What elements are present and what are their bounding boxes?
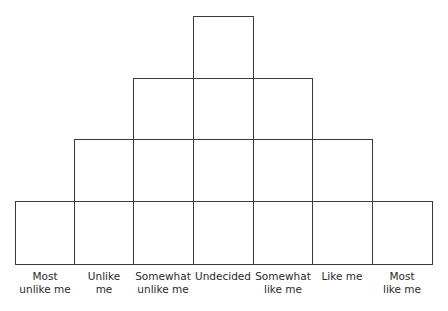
column-label-somewhat-unlike: Somewhatunlike me (132, 270, 194, 296)
grid-cell (133, 139, 194, 202)
grid-cell (312, 139, 373, 202)
grid-cell (74, 201, 134, 265)
grid-cell (193, 201, 254, 265)
column-label-like: Like me (311, 270, 373, 283)
grid-cell (133, 78, 194, 140)
column-label-undecided: Undecided (192, 270, 254, 283)
grid-cell (253, 139, 313, 202)
grid-cell (74, 139, 134, 202)
grid-cell (312, 201, 373, 265)
grid-cell (193, 16, 254, 79)
grid-cell (253, 201, 313, 265)
column-label-unlike: Unlikeme (73, 270, 135, 296)
column-label-most-unlike: Mostunlike me (14, 270, 76, 296)
grid-cell (372, 201, 433, 265)
grid-cell (133, 201, 194, 265)
grid-cell (15, 201, 75, 265)
grid-cell (193, 139, 254, 202)
grid-cell (193, 78, 254, 140)
column-label-somewhat-like: Somewhatlike me (252, 270, 314, 296)
column-label-most-like: Mostlike me (371, 270, 433, 296)
grid-cell (253, 78, 313, 140)
